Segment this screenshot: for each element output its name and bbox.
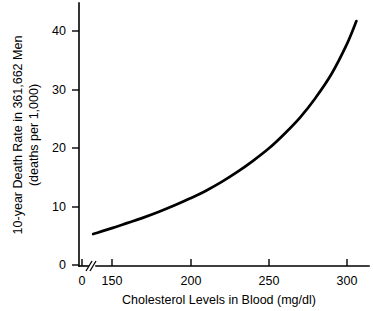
cholesterol-death-rate-chart: 0 10 20 30 40 0 150 200 250 300 Choleste… — [0, 0, 373, 311]
x-tick-label-150: 150 — [102, 274, 123, 288]
y-tick-label-10: 10 — [52, 200, 66, 214]
y-tick-label-0: 0 — [59, 258, 66, 272]
x-tick-label-200: 200 — [181, 274, 202, 288]
y-axis-title-line-1: 10-year Death Rate in 361,662 Men — [11, 36, 25, 235]
y-axis-title-line-2: (deaths per 1,000) — [27, 84, 41, 186]
death-rate-curve — [93, 21, 356, 234]
x-axis-title: Cholesterol Levels in Blood (mg/dl) — [122, 293, 316, 307]
y-tick-label-30: 30 — [52, 83, 66, 97]
x-tick-label-250: 250 — [259, 274, 280, 288]
x-tick-label-300: 300 — [337, 274, 358, 288]
y-tick-label-20: 20 — [52, 141, 66, 155]
x-tick-label-0: 0 — [79, 274, 86, 288]
chart-container: 0 10 20 30 40 0 150 200 250 300 Choleste… — [0, 0, 373, 311]
y-tick-label-40: 40 — [52, 24, 66, 38]
